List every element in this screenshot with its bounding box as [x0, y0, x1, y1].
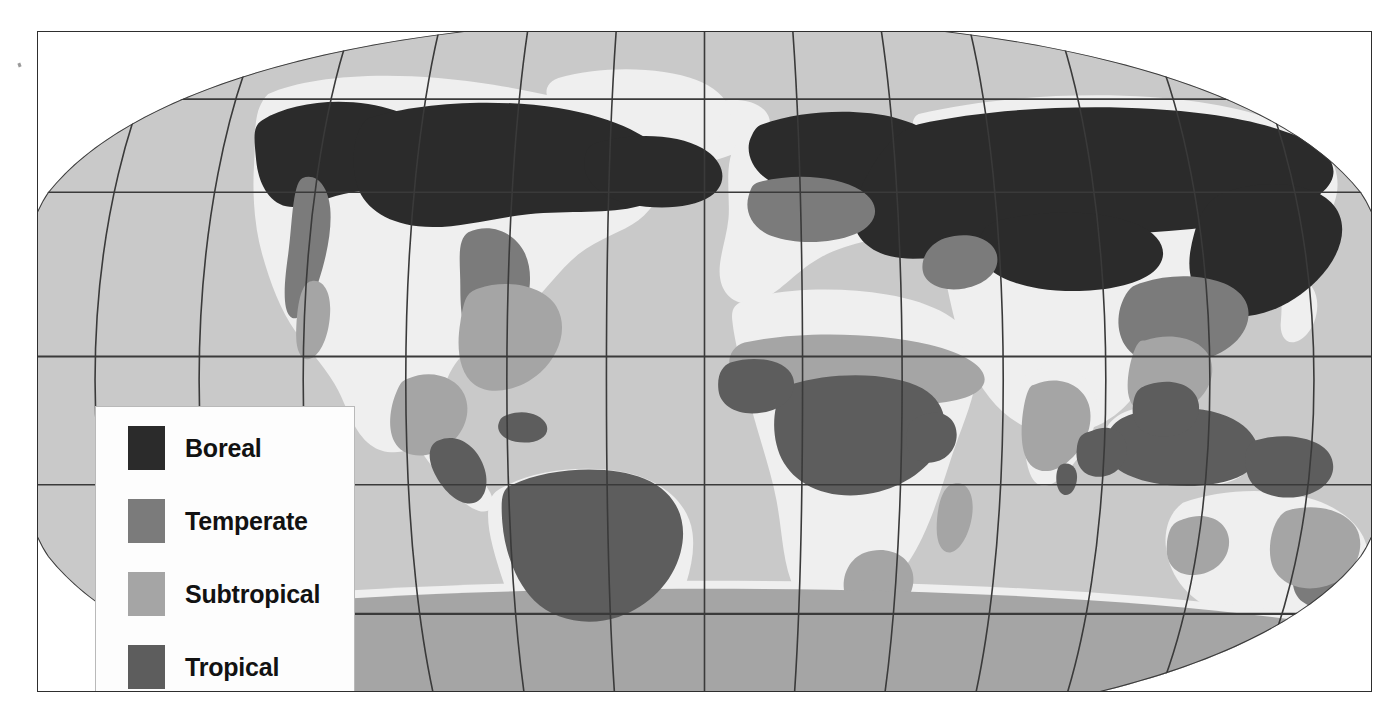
map-frame: Boreal Temperate Subtropical Tropical: [37, 31, 1372, 692]
legend-label-tropical: Tropical: [185, 655, 279, 680]
map-legend: Boreal Temperate Subtropical Tropical: [95, 406, 355, 692]
legend-swatch-temperate: [128, 499, 165, 543]
legend-label-subtropical: Subtropical: [185, 582, 320, 607]
legend-item-temperate: Temperate: [128, 499, 308, 543]
legend-item-subtropical: Subtropical: [128, 572, 320, 616]
legend-swatch-subtropical: [128, 572, 165, 616]
scan-artifact-speck: [17, 63, 21, 68]
legend-label-boreal: Boreal: [185, 436, 262, 461]
legend-item-tropical: Tropical: [128, 645, 279, 689]
legend-label-temperate: Temperate: [185, 509, 308, 534]
legend-swatch-tropical: [128, 645, 165, 689]
legend-item-boreal: Boreal: [128, 426, 262, 470]
figure-panel: Boreal Temperate Subtropical Tropical: [0, 0, 1400, 718]
legend-swatch-boreal: [128, 426, 165, 470]
